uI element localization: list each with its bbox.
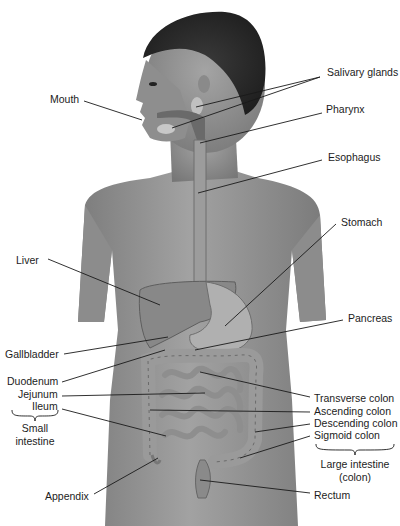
- label-pancreas: Pancreas: [348, 312, 392, 324]
- label-esophagus: Esophagus: [328, 151, 381, 163]
- label-small-intestine-2: intestine: [6, 435, 64, 447]
- label-sigmoid-colon: Sigmoid colon: [314, 429, 380, 441]
- label-transverse-colon: Transverse colon: [314, 392, 394, 404]
- label-duodenum: Duodenum: [7, 375, 58, 387]
- label-liver: Liver: [16, 254, 39, 266]
- label-large-intestine-2: (colon): [310, 471, 400, 483]
- label-descending-colon: Descending colon: [314, 417, 397, 429]
- label-mouth: Mouth: [50, 93, 79, 105]
- label-ascending-colon: Ascending colon: [314, 405, 391, 417]
- rectum-organ: [196, 460, 211, 498]
- label-jejunum: Jejunum: [18, 388, 58, 400]
- label-small-intestine-1: Small: [6, 422, 64, 434]
- label-stomach: Stomach: [341, 216, 382, 228]
- label-appendix: Appendix: [45, 490, 89, 502]
- label-pharynx: Pharynx: [326, 103, 365, 115]
- anatomy-illustration: [0, 0, 400, 526]
- digestive-system-diagram: Salivary glands Mouth Pharynx Esophagus …: [0, 0, 400, 526]
- large-intestine-brace: [316, 444, 394, 455]
- label-gallbladder: Gallbladder: [5, 348, 59, 360]
- label-rectum: Rectum: [314, 489, 350, 501]
- esophagus-organ: [194, 140, 206, 282]
- label-ileum: Ileum: [32, 400, 58, 412]
- label-large-intestine-1: Large intestine: [310, 458, 400, 470]
- label-salivary-glands: Salivary glands: [327, 66, 398, 78]
